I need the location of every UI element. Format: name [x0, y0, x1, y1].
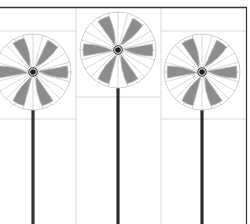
- pinwheel-center: [80, 12, 156, 88]
- pinwheel-hub: [30, 69, 36, 75]
- pinwheel-hub: [199, 69, 205, 75]
- pinwheels: [0, 12, 240, 110]
- pinwheel-left: [0, 34, 71, 110]
- pinwheel-scene: [0, 0, 250, 224]
- pinwheel-right: [164, 34, 240, 110]
- pinwheel-illustration: [0, 0, 250, 224]
- pinwheel-hub: [115, 47, 121, 53]
